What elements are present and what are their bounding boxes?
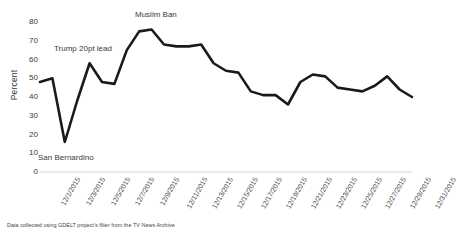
chart-annotation: Trump 20pt lead bbox=[54, 44, 112, 53]
x-tick-label: 12/31/2015 bbox=[434, 176, 457, 210]
chart-footnote: Data collected using GDELT project's fil… bbox=[7, 222, 175, 228]
chart-annotation: San Bernardino bbox=[38, 153, 94, 162]
chart-annotation: Muslim Ban bbox=[135, 10, 177, 19]
